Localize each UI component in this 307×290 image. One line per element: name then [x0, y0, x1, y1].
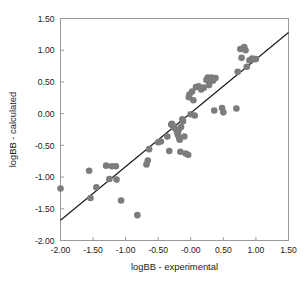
scatter-plot-figure: -2.00-1.50-1.00-0.50-0.000.501.001.50 -2… [0, 0, 307, 290]
data-point [234, 68, 241, 75]
data-point [191, 112, 198, 119]
data-point [134, 212, 141, 219]
x-axis-title: logBB - experimental [131, 261, 218, 272]
data-point [93, 184, 100, 191]
data-point [144, 157, 151, 164]
x-tick-label: 0.50 [215, 245, 232, 255]
data-point [106, 176, 113, 183]
data-point [146, 146, 153, 153]
data-point [113, 163, 120, 170]
data-point-group [57, 44, 259, 219]
data-point [242, 47, 249, 54]
y-tick-label: -1.00 [35, 172, 55, 182]
data-point [158, 138, 165, 145]
y-tick-label: 0.00 [38, 109, 55, 119]
x-tick-label: -1.50 [83, 245, 103, 255]
chart-canvas: -2.00-1.50-1.00-0.50-0.000.501.001.50 -2… [0, 0, 307, 290]
data-point [164, 133, 171, 140]
data-point [87, 195, 94, 202]
data-point [181, 133, 188, 140]
y-tick-label: 0.50 [38, 77, 55, 87]
y-tick-label: -2.00 [35, 236, 55, 246]
data-point [253, 56, 260, 63]
data-point [178, 124, 185, 131]
data-point [166, 148, 173, 155]
y-axis-title: logBB - calculated [7, 92, 18, 168]
data-point [185, 152, 192, 159]
data-point [238, 55, 245, 62]
x-tick-label: -0.50 [148, 245, 168, 255]
x-tick-label: -0.00 [181, 245, 201, 255]
y-tick-label: -0.50 [35, 141, 55, 151]
data-point [113, 176, 120, 183]
data-point [86, 167, 93, 174]
data-point [233, 105, 240, 112]
x-tick-label: 1.00 [248, 245, 265, 255]
data-point [244, 63, 251, 70]
data-point [211, 107, 218, 114]
x-tick-label: -1.00 [116, 245, 136, 255]
x-tick-label: 1.50 [280, 245, 297, 255]
y-tick-label: 1.00 [38, 45, 55, 55]
y-tick-label: -1.50 [35, 204, 55, 214]
data-point [180, 118, 187, 125]
y-axis-tickmarks [61, 19, 65, 241]
data-point [57, 185, 64, 192]
data-point [190, 97, 197, 104]
data-point [118, 197, 125, 204]
y-axis-tick-labels: -2.00-1.50-1.00-0.500.000.501.001.50 [35, 14, 55, 246]
data-point [103, 162, 110, 169]
data-point [212, 75, 219, 82]
data-point [220, 109, 227, 116]
x-tick-label: -2.00 [51, 245, 71, 255]
x-axis-tick-labels: -2.00-1.50-1.00-0.50-0.000.501.001.50 [51, 245, 297, 255]
y-tick-label: 1.50 [38, 14, 55, 24]
x-axis-tickmarks [61, 237, 289, 241]
